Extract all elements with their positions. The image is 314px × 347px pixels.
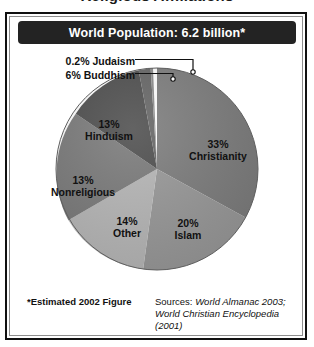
callout-label-buddhism: 6% Buddhism [23, 69, 135, 81]
slice-label-nonreligious-value: 13% [72, 174, 93, 186]
sources-label: Sources: [155, 296, 195, 307]
slice-label-christianity-value: 33% [207, 138, 228, 150]
slice-label-christianity-name: Christianity [189, 150, 247, 162]
slice-label-nonreligious-name: Nonreligious [51, 186, 115, 198]
chart-panel: World Population: 6.2 billion* [5, 12, 307, 340]
pie-chart [55, 67, 259, 271]
slice-label-other-value: 14% [116, 215, 137, 227]
slice-label-other-name: Other [113, 227, 141, 239]
slice-label-islam: 20% Islam [160, 217, 216, 241]
slice-label-islam-value: 20% [177, 217, 198, 229]
pie-shading [56, 68, 258, 270]
source-world-almanac: World Almanac 2003; [195, 296, 285, 307]
sources-block: Sources: World Almanac 2003; World Chris… [155, 296, 305, 332]
slice-label-nonreligious: 13% Nonreligious [40, 174, 126, 198]
slice-label-hinduism-value: 13% [98, 118, 119, 130]
source-world-christian-encyclopedia: World Christian Encyclopedia (2001) [155, 308, 279, 331]
callout-label-judaism: 0.2% Judaism [23, 55, 135, 67]
slice-label-other: 14% Other [99, 215, 155, 239]
slice-label-islam-name: Islam [175, 229, 202, 241]
slice-label-christianity: 33% Christianity [179, 138, 257, 162]
slice-label-hinduism: 13% Hinduism [71, 118, 147, 142]
footnote-estimated-figure: *Estimated 2002 Figure [27, 296, 132, 307]
page-title: Religious Affiliations [0, 0, 314, 4]
chart-figure: Religious Affiliations World Population:… [0, 0, 314, 347]
slice-label-hinduism-name: Hinduism [85, 130, 133, 142]
